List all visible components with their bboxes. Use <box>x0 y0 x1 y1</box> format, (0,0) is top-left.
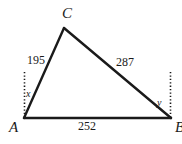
side-length-label-ab: 252 <box>78 120 96 132</box>
triangle-side-ac <box>24 28 64 118</box>
triangle-figure: C A B 195 287 252 x y <box>0 0 182 144</box>
angle-label-y: y <box>157 98 161 108</box>
side-length-label-cb: 287 <box>116 56 134 68</box>
side-length-label-ac: 195 <box>27 54 45 66</box>
angle-label-x: x <box>26 89 30 99</box>
triangle-side-cb <box>64 28 171 118</box>
vertex-label-a: A <box>9 120 18 135</box>
vertex-label-b: B <box>175 120 182 135</box>
vertex-label-c: C <box>62 6 72 21</box>
